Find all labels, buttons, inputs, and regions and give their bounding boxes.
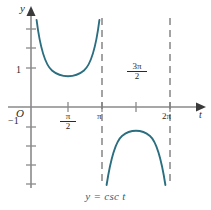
y-tick-label-1: 1 bbox=[16, 65, 21, 75]
y-tick-label-minus-1: −1 bbox=[8, 116, 19, 126]
x-tick-label-3pi-over-2: 3π 2 bbox=[127, 62, 147, 82]
y-axis-arrowhead bbox=[27, 6, 36, 16]
csc-curve-upper-branch bbox=[37, 20, 100, 76]
csc-function-graph-figure: y t O 1 −1 π 2 π 3π 2 2π y = csc t bbox=[0, 0, 211, 210]
t-axis-label: t bbox=[199, 110, 202, 120]
y-axis-label: y bbox=[20, 3, 25, 14]
x-tick-label-pi: π bbox=[97, 112, 102, 121]
figure-caption: y = csc t bbox=[0, 190, 211, 202]
x-tick-label-pi-over-2: π 2 bbox=[60, 112, 76, 132]
x-tick-label-2pi: 2π bbox=[162, 112, 171, 121]
plot-canvas bbox=[0, 0, 211, 210]
x-tick-label-pi-over-2-denominator: 2 bbox=[60, 122, 76, 131]
csc-curve-lower-branch bbox=[107, 131, 166, 185]
x-tick-label-3pi-over-2-denominator: 2 bbox=[127, 72, 147, 81]
